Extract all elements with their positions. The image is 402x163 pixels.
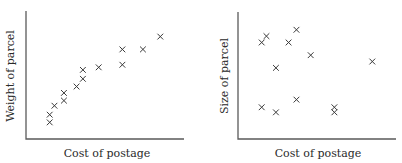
chart-0-point-0 bbox=[47, 120, 52, 125]
chart-1-point-1 bbox=[264, 34, 269, 39]
size-vs-cost-chart: Cost of postage Size of parcel bbox=[218, 12, 396, 160]
scatter-charts: Cost of postage Weight of parcel Cost of… bbox=[0, 0, 402, 163]
chart-0-point-4 bbox=[61, 90, 66, 95]
chart-0-point-5 bbox=[74, 84, 79, 89]
chart-0-point-12 bbox=[158, 34, 163, 39]
chart-1-point-7 bbox=[259, 105, 264, 110]
chart-1-point-11 bbox=[332, 110, 337, 115]
chart-0-x-axis-label: Cost of postage bbox=[64, 147, 151, 160]
chart-0-point-2 bbox=[52, 103, 57, 108]
chart-0-axes bbox=[26, 11, 184, 139]
chart-0-point-10 bbox=[120, 47, 125, 52]
chart-1-point-10 bbox=[332, 105, 337, 110]
chart-1-point-5 bbox=[273, 65, 278, 70]
chart-0-point-8 bbox=[96, 65, 101, 70]
chart-0-point-3 bbox=[61, 98, 66, 103]
chart-1-y-axis-label: Size of parcel bbox=[218, 37, 231, 114]
chart-1-point-4 bbox=[308, 53, 313, 58]
chart-0-point-7 bbox=[80, 67, 85, 72]
chart-1-point-8 bbox=[273, 110, 278, 115]
chart-1-point-2 bbox=[294, 27, 299, 32]
chart-1-axes bbox=[238, 12, 396, 139]
chart-1-points bbox=[259, 27, 375, 115]
chart-1-point-6 bbox=[370, 59, 375, 64]
chart-0-point-1 bbox=[47, 112, 52, 117]
chart-1-x-axis-label: Cost of postage bbox=[275, 147, 362, 160]
chart-1-point-9 bbox=[294, 97, 299, 102]
chart-0-y-axis-label: Weight of parcel bbox=[4, 30, 17, 122]
chart-0-points bbox=[47, 34, 163, 125]
weight-vs-cost-chart: Cost of postage Weight of parcel bbox=[4, 11, 184, 160]
chart-1-point-3 bbox=[286, 40, 291, 45]
chart-0-point-6 bbox=[80, 76, 85, 81]
chart-1-point-0 bbox=[259, 40, 264, 45]
chart-0-point-11 bbox=[140, 47, 145, 52]
chart-0-point-9 bbox=[120, 62, 125, 67]
